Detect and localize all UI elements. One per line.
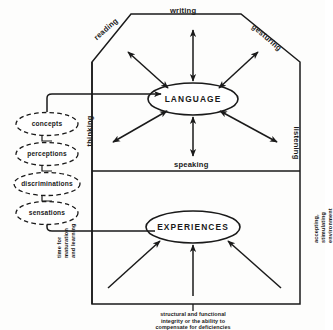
connector-concepts-to-language: [47, 94, 161, 112]
arrow-language-reading: [128, 52, 168, 88]
arrow-language-gesturing: [219, 52, 258, 88]
input-label-time-line3: and learning: [70, 196, 77, 258]
arrow-time-to-experiences: [108, 241, 160, 288]
input-label-time-for-maturation: time for maturation and learning: [56, 196, 76, 258]
input-label-env-line1: accepting,: [313, 179, 320, 243]
experiences-node-label: EXPERIENCES: [157, 222, 229, 232]
arrow-language-listening: [220, 111, 277, 142]
arrow-environment-to-experiences: [228, 241, 281, 288]
input-label-accepting-environment: accepting, stimulating environment: [313, 179, 333, 243]
language-node-label: LANGUAGE: [163, 94, 223, 104]
input-label-time-line2: maturation: [63, 196, 70, 258]
edge-label-listening: listening: [292, 127, 301, 160]
edge-label-speaking: speaking: [174, 160, 209, 169]
input-label-integrity-line1: structural and functional: [133, 311, 253, 318]
octagon-frame: [92, 14, 300, 304]
dashed-label-discriminations: discriminations: [14, 180, 80, 187]
input-label-structural-integrity: structural and functional integrity or t…: [133, 311, 253, 330]
input-label-integrity-line3: compensate for deficiencies: [133, 324, 253, 330]
dashed-label-perceptions: perceptions: [17, 150, 77, 157]
input-label-env-line2: stimulating: [320, 179, 327, 243]
input-label-integrity-line2: integrity or the ability to: [133, 318, 253, 325]
input-label-env-line3: environment: [327, 179, 333, 243]
dashed-label-concepts: concepts: [17, 120, 77, 127]
input-label-time-line1: time for: [56, 196, 63, 258]
edge-label-thinking: thinking: [85, 115, 94, 146]
arrow-language-thinking: [113, 111, 167, 142]
edge-label-writing: writing: [170, 6, 196, 15]
